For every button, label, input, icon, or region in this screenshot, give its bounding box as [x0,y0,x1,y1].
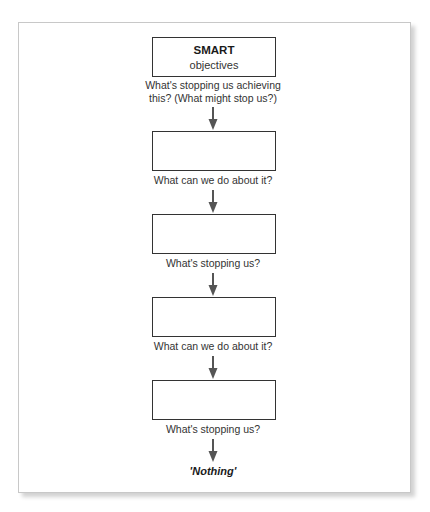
end-text-nothing: 'Nothing' [113,465,313,477]
step-label-5: What's stopping us? [113,423,313,436]
down-arrow-icon [206,439,220,463]
empty-box-2 [152,131,276,171]
step-label-1-line2: this? (What might stop us?) [113,92,313,105]
step-label-2: What can we do about it? [113,174,313,187]
box-subtitle: objectives [153,59,275,71]
empty-box-3 [152,214,276,254]
down-arrow-icon [206,107,220,131]
empty-box-5 [152,380,276,420]
down-arrow-icon [206,356,220,380]
empty-box-4 [152,297,276,337]
box-title: SMART [153,44,275,56]
down-arrow-icon [206,273,220,297]
smart-objectives-box: SMART objectives [152,37,276,77]
step-label-1-line1: What's stopping us achieving [113,79,313,92]
down-arrow-icon [206,190,220,214]
step-label-4: What can we do about it? [113,340,313,353]
step-label-3: What's stopping us? [113,257,313,270]
